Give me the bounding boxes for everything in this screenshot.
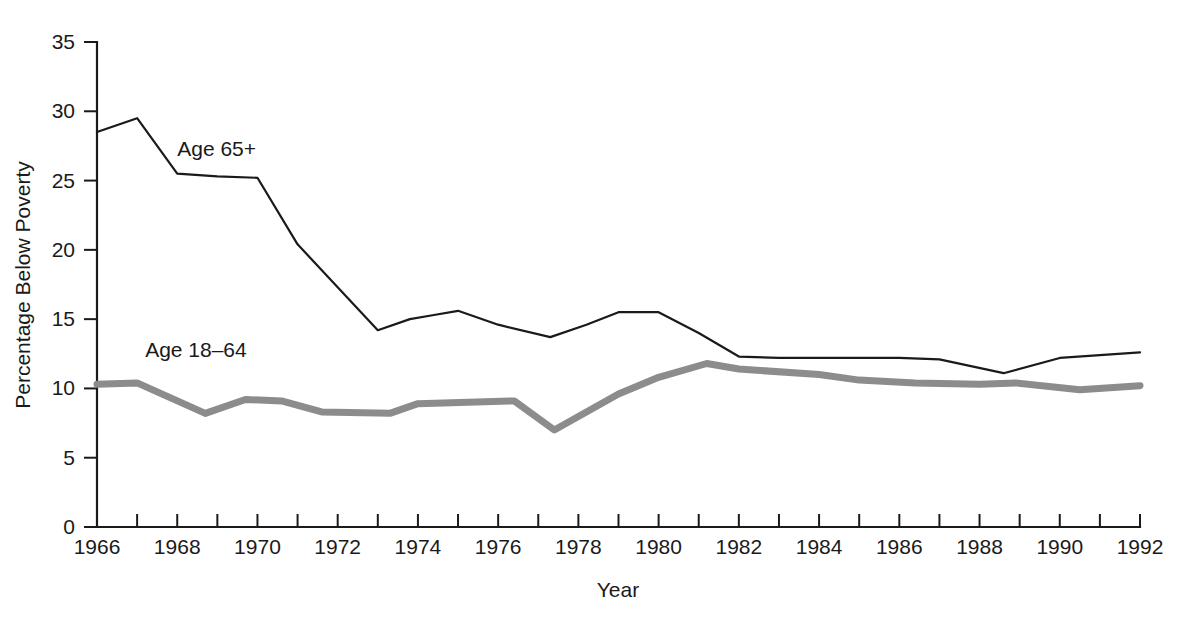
y-axis-tick-labels: 05101520253035 <box>52 30 75 538</box>
x-tick-label: 1992 <box>1117 535 1164 558</box>
x-tick-label: 1986 <box>876 535 923 558</box>
y-tick-label: 35 <box>52 30 75 53</box>
series-label-age-65-plus: Age 65+ <box>177 137 256 160</box>
y-tick-label: 5 <box>63 446 75 469</box>
x-axis-title: Year <box>597 578 639 601</box>
series-line-age-18-64 <box>97 363 1140 430</box>
poverty-line-chart: 05101520253035 1966196819701972197419761… <box>0 0 1199 618</box>
x-axis-tick-labels: 1966196819701972197419761978198019821984… <box>74 535 1164 558</box>
x-tick-label: 1978 <box>555 535 602 558</box>
x-tick-label: 1970 <box>234 535 281 558</box>
y-tick-label: 15 <box>52 307 75 330</box>
x-tick-label: 1966 <box>74 535 121 558</box>
x-tick-label: 1974 <box>395 535 442 558</box>
chart-canvas: 05101520253035 1966196819701972197419761… <box>0 0 1199 618</box>
x-tick-label: 1984 <box>796 535 843 558</box>
x-tick-label: 1976 <box>475 535 522 558</box>
x-tick-label: 1988 <box>956 535 1003 558</box>
axes-group <box>84 42 1140 527</box>
series-group <box>97 118 1140 430</box>
x-tick-label: 1968 <box>154 535 201 558</box>
x-tick-label: 1980 <box>635 535 682 558</box>
series-annotations: Age 65+Age 18–64 <box>145 137 256 361</box>
x-tick-label: 1972 <box>314 535 361 558</box>
y-axis-title: Percentage Below Poverty <box>11 161 34 409</box>
x-tick-label: 1990 <box>1036 535 1083 558</box>
y-tick-label: 25 <box>52 169 75 192</box>
y-axis-tick-marks <box>84 42 97 527</box>
y-tick-label: 20 <box>52 238 75 261</box>
series-label-age-18-64: Age 18–64 <box>145 338 247 361</box>
x-tick-label: 1982 <box>715 535 762 558</box>
y-tick-label: 30 <box>52 99 75 122</box>
x-axis-tick-marks <box>97 514 1140 527</box>
y-tick-label: 10 <box>52 376 75 399</box>
